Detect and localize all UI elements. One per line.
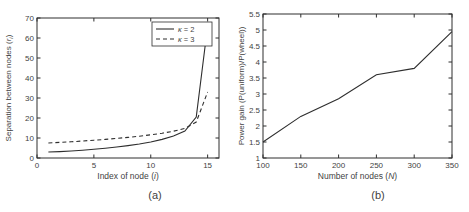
y-tick-label: 5	[256, 26, 261, 35]
x-tick-label: 0	[35, 161, 40, 170]
chart-panel-b: 10015020025030035011.522.533.544.555.5Nu…	[235, 0, 469, 212]
x-tick-label: 10	[146, 161, 155, 170]
x-axis-label: Index of node (i)	[97, 171, 159, 181]
x-tick-label: 200	[332, 161, 346, 170]
y-tick-label: 5.5	[249, 10, 261, 19]
y-tick-label: 2.5	[249, 106, 261, 115]
x-tick-label: 150	[294, 161, 308, 170]
y-tick-label: 0	[30, 154, 35, 163]
y-axis-label: Separation between nodes (ri)	[4, 34, 14, 141]
y-tick-label: 3	[256, 90, 261, 99]
x-tick-label: 300	[408, 161, 422, 170]
x-tick-label: 250	[370, 161, 384, 170]
y-tick-label: 20	[25, 114, 34, 123]
y-tick-label: 2	[256, 122, 261, 131]
caption-a: (a)	[115, 189, 195, 201]
chart-b-canvas: 10015020025030035011.522.533.544.555.5Nu…	[235, 0, 469, 212]
two-panel-line-chart-figure: 051015010203040506070Index of node (i)Se…	[0, 0, 469, 212]
y-tick-label: 40	[25, 74, 34, 83]
y-axis-label: Power gain (P(uniform)/P(wheel))	[237, 26, 246, 145]
y-tick-label: 4.5	[249, 42, 261, 51]
x-tick-label: 15	[203, 161, 212, 170]
y-tick-label: 30	[25, 94, 34, 103]
series-line	[48, 92, 207, 143]
y-tick-label: 60	[25, 34, 34, 43]
chart-a-canvas: 051015010203040506070Index of node (i)Se…	[0, 0, 235, 212]
y-tick-label: 70	[25, 14, 34, 23]
axes-frame	[263, 14, 452, 158]
series-line	[263, 32, 452, 142]
legend-entry-label: κ = 3	[178, 35, 194, 44]
caption-b: (b)	[338, 189, 418, 201]
y-tick-label: 4	[256, 58, 261, 67]
x-tick-label: 350	[445, 161, 459, 170]
x-tick-label: 5	[92, 161, 97, 170]
y-tick-label: 10	[25, 134, 34, 143]
y-tick-label: 1.5	[249, 138, 261, 147]
y-tick-label: 50	[25, 54, 34, 63]
chart-panel-a: 051015010203040506070Index of node (i)Se…	[0, 0, 235, 212]
y-tick-label: 3.5	[249, 74, 261, 83]
x-axis-label: Number of nodes (N)	[318, 171, 398, 181]
legend-entry-label: κ = 2	[178, 25, 194, 34]
y-tick-label: 1	[256, 154, 261, 163]
